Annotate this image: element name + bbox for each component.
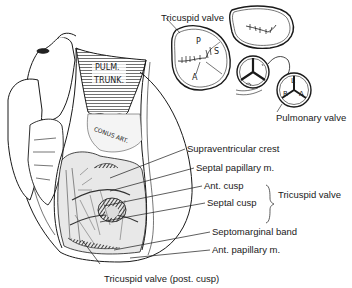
label-tricuspid-post-cusp: Tricuspid valve (post. cusp) xyxy=(104,274,219,284)
label-pulmonary-valve: Pulmonary valve xyxy=(276,113,346,123)
label-supraventricular-crest: Supraventricular crest xyxy=(187,144,279,154)
pulmonary-letter-a: A xyxy=(299,91,304,98)
label-septal-papillary: Septal papillary m. xyxy=(196,163,274,173)
label-tricuspid-valve-bracket: Tricuspid valve xyxy=(278,190,341,200)
label-septomarginal-band: Septomarginal band xyxy=(212,227,297,237)
trunk-inscription: TRUNK. xyxy=(94,77,124,85)
tricuspid-letter-a: A xyxy=(192,74,197,82)
label-tricuspid-valve-top: Tricuspid valve xyxy=(161,13,224,23)
anatomy-figure: PULM. TRUNK. CONUS ART. P S A L R A Tric… xyxy=(0,0,352,288)
heart-illustration xyxy=(0,0,352,288)
tricuspid-valve-inset xyxy=(166,18,230,90)
tricuspid-letter-s: S xyxy=(214,48,219,56)
label-septal-cusp: Septal cusp xyxy=(207,198,257,208)
mitral-valve-inset xyxy=(230,6,294,48)
ventricle-interior xyxy=(58,152,147,254)
label-ant-cusp: Ant. cusp xyxy=(204,181,244,191)
label-ant-papillary: Ant. papillary m. xyxy=(212,245,280,255)
tricuspid-letter-p: P xyxy=(196,38,201,46)
pulmonary-letter-r: R xyxy=(283,91,288,98)
pulm-inscription: PULM. xyxy=(95,64,120,72)
pulmonary-letter-l: L xyxy=(291,78,295,85)
